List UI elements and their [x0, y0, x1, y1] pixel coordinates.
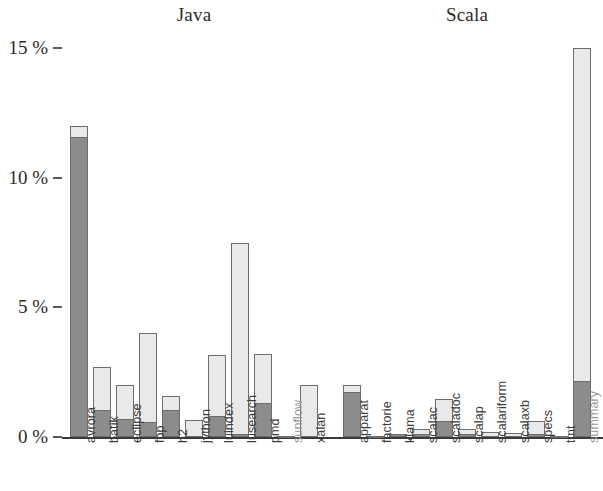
x-axis-label-scalariform: scalariform	[495, 381, 509, 443]
x-axis-label-tmt: tmt	[564, 425, 578, 443]
x-axis-label-kiama: kiama	[403, 409, 417, 443]
x-axis-label-avrora: avrora	[84, 407, 98, 443]
x-axis-label-fop: fop	[153, 425, 167, 443]
x-axis-label-luindex: luindex	[222, 403, 236, 443]
x-axis-label-specs: specs	[541, 410, 555, 443]
x-axis-label-xalan: xalan	[314, 413, 328, 443]
x-axis-label-lusearch: lusearch	[245, 395, 259, 443]
x-axis-label-apparat: apparat	[357, 400, 371, 443]
x-axis-label-scalap: scalap	[472, 406, 486, 443]
x-axis-label-pmd: pmd	[268, 418, 282, 443]
x-axis-label-jython: jython	[199, 409, 213, 443]
x-axis-label-sunflow: sunflow	[291, 400, 305, 443]
x-axis-label-batik: batik	[107, 416, 121, 443]
x-axis-label-h2: h2	[176, 429, 190, 443]
x-axis-label-scaladoc: scaladoc	[449, 393, 463, 443]
x-axis-label-summary: summary	[587, 391, 601, 443]
x-axis-label-scalaxb: scalaxb	[518, 400, 532, 443]
x-axis-label-scalac: scalac	[426, 407, 440, 443]
x-axis-label-factorie: factorie	[380, 401, 394, 443]
x-axis-label-eclipse: eclipse	[130, 403, 144, 443]
